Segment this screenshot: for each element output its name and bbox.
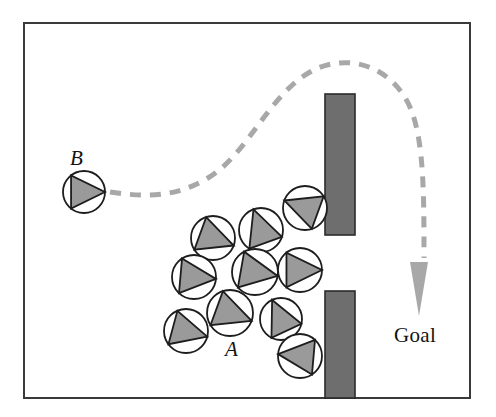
obstacle-lower-wall	[325, 291, 355, 398]
robot-marker	[239, 208, 283, 252]
robot-marker	[278, 334, 322, 378]
robot-marker	[191, 216, 235, 260]
robot-marker	[63, 171, 105, 213]
robot-marker	[232, 249, 278, 295]
robot-navigation-figure: B A Goal	[0, 0, 496, 417]
robot-marker	[283, 186, 327, 230]
robot-marker	[172, 255, 216, 299]
scene-canvas	[0, 0, 496, 417]
obstacle-upper-wall	[325, 94, 355, 235]
robot-marker	[207, 290, 253, 336]
robot-marker	[278, 248, 322, 292]
robot-marker	[164, 309, 208, 353]
